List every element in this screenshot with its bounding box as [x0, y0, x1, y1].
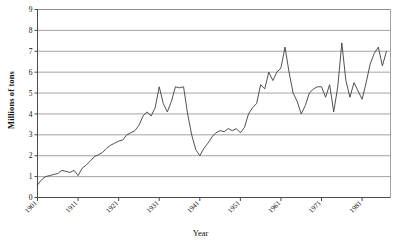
y-tick-label-1: 1: [29, 172, 33, 181]
y-tick-label-7: 7: [29, 47, 33, 56]
x-tick-label-1981: 1981: [348, 199, 364, 215]
y-tick-label-5: 5: [29, 89, 33, 98]
y-tick-label-8: 8: [29, 26, 33, 35]
x-tick-label-1911: 1911: [64, 199, 80, 215]
line-chart-plot: 0123456789190119111921193119411951196119…: [0, 0, 415, 245]
chart-container: Millions of tons 01234567891901191119211…: [0, 0, 415, 245]
y-tick-label-9: 9: [29, 5, 33, 14]
y-tick-label-3: 3: [29, 130, 33, 139]
x-tick-label-1951: 1951: [226, 199, 242, 215]
x-axis-title: Year: [193, 228, 209, 238]
x-tick-label-1941: 1941: [186, 199, 202, 215]
x-tick-label-1921: 1921: [105, 199, 121, 215]
y-tick-label-6: 6: [29, 68, 33, 77]
x-tick-label-1901: 1901: [23, 199, 39, 215]
x-tick-label-1931: 1931: [145, 199, 161, 215]
x-axis-title-wrap: Year: [0, 228, 415, 238]
x-tick-label-1961: 1961: [267, 199, 283, 215]
x-tick-label-1971: 1971: [307, 199, 323, 215]
y-tick-label-2: 2: [29, 151, 33, 160]
y-tick-label-4: 4: [29, 110, 33, 119]
